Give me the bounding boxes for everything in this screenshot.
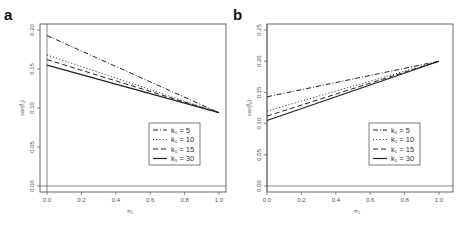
panel-letter: a [4, 6, 13, 23]
panel-b: b0.00.20.40.60.81.00.000.050.100.150.200… [233, 6, 453, 214]
x-tick-label: 0.6 [366, 197, 375, 203]
series-line-4 [47, 65, 219, 113]
series-line-2 [47, 55, 219, 113]
x-tick-label: 1.0 [215, 197, 224, 203]
y-tick-label: 0.00 [256, 180, 262, 192]
x-tick-label: 0.4 [332, 197, 341, 203]
y-axis-title: var(f̂₂) [246, 100, 252, 116]
x-axis-title: π₁ [127, 208, 133, 214]
x-tick-label: 0.8 [400, 197, 409, 203]
x-tick-label: 0.2 [77, 197, 86, 203]
x-axis-title: π₂ [354, 208, 361, 214]
series-line-3 [47, 60, 219, 113]
legend-label: k₁ = 10 [391, 135, 414, 144]
y-tick-label: 0.15 [256, 86, 262, 98]
legend-label: k₁ = 30 [171, 154, 194, 163]
y-tick-label: 0.15 [29, 63, 35, 75]
y-tick-label: 0.25 [256, 24, 262, 36]
x-tick-label: 0.2 [297, 197, 306, 203]
legend: k₁ = 5k₁ = 10k₁ = 15k₁ = 30 [149, 123, 200, 165]
panel-letter: b [233, 6, 242, 23]
legend: k₁ = 5k₁ = 10k₁ = 15k₁ = 30 [369, 123, 420, 165]
y-tick-label: 0.05 [256, 148, 262, 160]
y-tick-label: 0.20 [256, 55, 262, 67]
legend-label: k₁ = 5 [171, 126, 190, 135]
legend-label: k₁ = 10 [171, 135, 194, 144]
legend-label: k₁ = 15 [171, 145, 194, 154]
x-tick-label: 0.0 [263, 197, 272, 203]
legend-label: k₁ = 15 [391, 145, 414, 154]
y-tick-label: 0.00 [29, 180, 35, 192]
y-tick-label: 0.10 [256, 117, 262, 129]
x-tick-label: 0.4 [112, 197, 121, 203]
series-line-3 [267, 61, 439, 116]
legend-label: k₁ = 5 [391, 126, 410, 135]
plot-frame [267, 24, 453, 192]
y-tick-label: 0.20 [29, 24, 35, 36]
x-tick-label: 0.6 [146, 197, 155, 203]
series-line-2 [267, 61, 439, 111]
x-tick-label: 0.0 [43, 197, 52, 203]
series-line-1 [47, 36, 219, 113]
series-line-4 [267, 61, 439, 120]
y-tick-label: 0.10 [29, 102, 35, 114]
plot-frame [40, 24, 226, 192]
x-tick-label: 1.0 [435, 197, 444, 203]
y-tick-label: 0.05 [29, 141, 35, 153]
figure: a0.00.20.40.60.81.00.000.050.100.150.20π… [0, 0, 459, 227]
panel-a: a0.00.20.40.60.81.00.000.050.100.150.20π… [4, 6, 226, 214]
x-tick-label: 0.8 [180, 197, 189, 203]
y-axis-title: var(f̂₁) [19, 100, 25, 116]
legend-label: k₁ = 30 [391, 154, 414, 163]
